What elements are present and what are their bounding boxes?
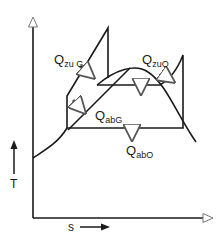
q-ab-g-label: QabG [95,108,122,125]
q-zu-o-label: QzuO [142,52,169,69]
cycle-curves [33,28,196,158]
q-ab-g-main: Q [95,108,105,123]
q-zu-g-main: Q [54,52,64,67]
x-axis-label: s [68,220,74,234]
y-axis-label: T [10,177,18,191]
heat-labels: Qzu G QabG QzuO QabO [54,52,169,160]
t-axis-label-group: T [10,140,18,191]
q-zu-o-main: Q [142,52,152,67]
q-ab-o-sub: abO [136,150,153,160]
q-zu-g-sub: zu G [64,59,83,69]
heat-arrows [73,66,174,140]
q-ab-o-main: Q [126,143,136,158]
q-zu-g-label: Qzu G [54,52,83,69]
ts-diagram: T s Qzu G QabG QzuO [0,0,217,239]
x-axis-arrow-icon [203,214,213,223]
saturation-dome [97,68,196,142]
liquid-line [33,128,67,158]
y-axis-arrow-icon [29,17,38,27]
t-arrow-head-icon [11,140,18,149]
s-axis-label-group: s [68,220,110,234]
q-ab-g-sub: abG [105,115,122,125]
s-arrow-head-icon [101,224,110,231]
q-ab-o-label: QabO [126,143,153,160]
q-zu-o-sub: zuO [152,59,169,69]
q-ab-g-arrow [73,100,85,113]
